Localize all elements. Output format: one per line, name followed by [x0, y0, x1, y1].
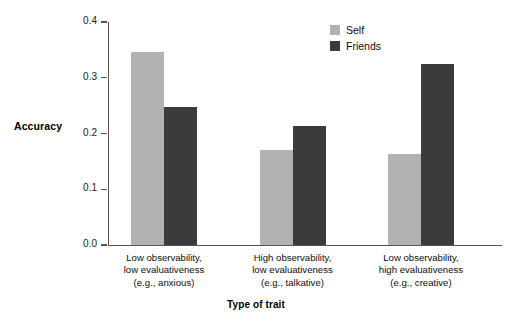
chart-legend: SelfFriends [330, 23, 381, 55]
legend-label-friends: Friends [346, 40, 381, 52]
legend-item-friends: Friends [330, 39, 381, 53]
bar-friends-group2 [293, 126, 326, 245]
x-category-label-line: (e.g., anxious) [100, 277, 228, 289]
x-category-label-1: Low observability,low evaluativeness(e.g… [100, 252, 228, 289]
x-category-label-line: High observability, [229, 252, 357, 264]
bar-friends-group3 [421, 64, 454, 245]
x-category-label-line: high evaluativeness [357, 264, 485, 276]
x-axis-title: Type of trait [0, 299, 512, 310]
x-category-label-line: (e.g., creative) [357, 277, 485, 289]
y-tick-mark [101, 77, 107, 78]
y-tick-mark [101, 21, 107, 22]
y-tick-label: 0.2 [66, 127, 97, 138]
x-category-label-line: (e.g., talkative) [229, 277, 357, 289]
y-tick-label: 0.4 [66, 15, 97, 26]
x-category-label-line: low evaluativeness [100, 264, 228, 276]
bar-friends-group1 [164, 107, 197, 245]
bar-self-group1 [131, 52, 164, 245]
y-tick-mark [101, 189, 107, 190]
bar-self-group2 [260, 150, 293, 245]
y-tick-label: 0.1 [66, 182, 97, 193]
x-category-label-line: low evaluativeness [229, 264, 357, 276]
x-category-label-2: High observability,low evaluativeness(e.… [229, 252, 357, 289]
legend-swatch-self [330, 25, 340, 35]
legend-swatch-friends [330, 41, 340, 51]
bar-chart-figure: Accuracy 0.00.10.20.30.4 Low observabili… [0, 0, 512, 327]
legend-label-self: Self [346, 24, 364, 36]
bar-self-group3 [388, 154, 421, 245]
x-category-label-line: Low observability, [100, 252, 228, 264]
y-tick-mark [101, 133, 107, 134]
plot-area [108, 22, 500, 245]
y-tick-label: 0.0 [66, 238, 97, 249]
x-category-label-3: Low observability,high evaluativeness(e.… [357, 252, 485, 289]
y-tick-mark [101, 244, 107, 245]
legend-item-self: Self [330, 23, 381, 37]
y-tick-label: 0.3 [66, 71, 97, 82]
x-category-label-line: Low observability, [357, 252, 485, 264]
